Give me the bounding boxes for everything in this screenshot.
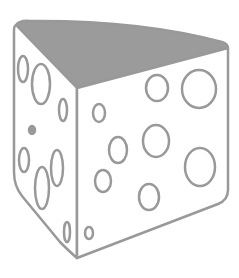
cheese-hole	[29, 126, 35, 134]
cheese-illustration: Line drawing of a wedge of Swiss cheese …	[0, 0, 239, 278]
cheese-wedge-drawing	[0, 0, 239, 278]
